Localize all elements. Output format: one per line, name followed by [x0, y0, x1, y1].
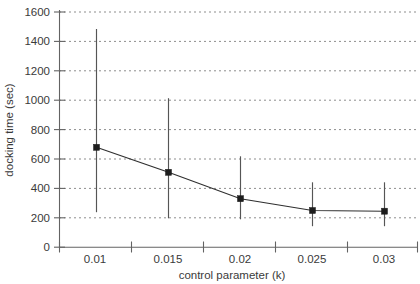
x-axis [59, 242, 418, 253]
x-tick-labels: 0.01 0.015 0.02 0.025 0.03 [84, 253, 395, 265]
data-point-1 [166, 169, 172, 175]
data-point-0 [94, 144, 100, 150]
y-axis-title: docking time (sec) [3, 83, 15, 176]
y-tick-label-0: 0 [44, 241, 50, 253]
y-tick-label-400: 400 [31, 182, 50, 194]
y-tick-label-1400: 1400 [24, 35, 50, 47]
chart-figure: 1600 1400 1200 1000 800 600 400 200 0 do… [0, 0, 420, 284]
y-axis [54, 10, 65, 247]
x-tick-label-0.01: 0.01 [84, 253, 106, 265]
y-tick-label-1000: 1000 [24, 94, 50, 106]
y-tick-label-1600: 1600 [24, 6, 50, 18]
x-tick-label-0.025: 0.025 [298, 253, 327, 265]
y-tick-label-1200: 1200 [24, 65, 50, 77]
data-point-2 [238, 196, 244, 202]
data-point-4 [382, 208, 388, 214]
y-tick-label-200: 200 [31, 212, 50, 224]
x-tick-label-0.03: 0.03 [373, 253, 395, 265]
y-tick-label-800: 800 [31, 124, 50, 136]
x-tick-label-0.015: 0.015 [154, 253, 183, 265]
x-tick-label-0.02: 0.02 [229, 253, 251, 265]
x-axis-title: control parameter (k) [179, 269, 286, 281]
gridlines-horizontal [59, 12, 416, 218]
data-point-3 [310, 208, 316, 214]
chart-canvas: 1600 1400 1200 1000 800 600 400 200 0 do… [0, 0, 420, 284]
y-tick-labels: 1600 1400 1200 1000 800 600 400 200 0 [24, 6, 50, 253]
y-tick-label-600: 600 [31, 153, 50, 165]
